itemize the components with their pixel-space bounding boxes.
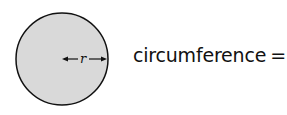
formula-lhs: circumference [133, 44, 266, 66]
circumference-formula: circumference=2πr [133, 44, 287, 66]
radius-label: r [80, 51, 87, 66]
formula-equals: = [270, 44, 286, 66]
